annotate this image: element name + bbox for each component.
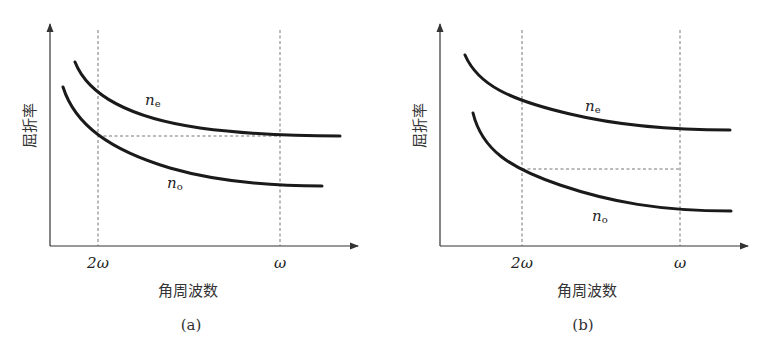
curve-n-o	[63, 87, 322, 186]
curve-n-o	[473, 113, 731, 211]
dispersion-figure: ne no 2ω ω 角周波数 屈折率 (a) ne no 2ω ω 角周波数 …	[0, 0, 761, 359]
label-n-o: no	[167, 174, 183, 192]
x-axis-label: 角周波数	[158, 282, 218, 300]
xtick-2omega: 2ω	[510, 254, 533, 272]
y-axis-label: 屈折率	[21, 103, 39, 148]
label-n-o: no	[592, 207, 608, 225]
label-n-e: ne	[145, 91, 161, 109]
x-axis-label: 角周波数	[557, 282, 617, 300]
label-n-e: ne	[585, 97, 601, 115]
panel-caption: (b)	[572, 316, 593, 334]
xtick-omega: ω	[674, 254, 686, 272]
curve-n-e	[75, 62, 340, 136]
curve-n-e	[465, 55, 730, 130]
xtick-omega: ω	[274, 254, 286, 272]
panel-a: ne no 2ω ω 角周波数 屈折率 (a)	[21, 24, 358, 334]
panel-caption: (a)	[181, 316, 202, 334]
y-axis-label: 屈折率	[411, 103, 429, 148]
xtick-2omega: 2ω	[86, 254, 109, 272]
panel-b: ne no 2ω ω 角周波数 屈折率 (b)	[411, 24, 748, 334]
